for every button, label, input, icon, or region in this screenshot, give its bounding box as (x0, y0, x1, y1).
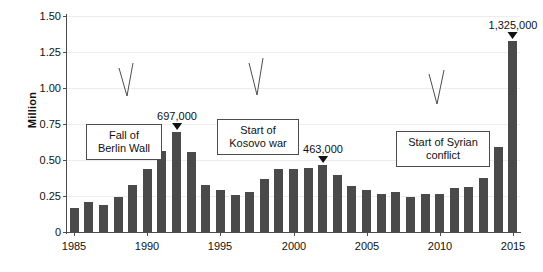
bar-chart: Million 00.250.500.751.001.251.50 198519… (0, 0, 543, 272)
y-axis-title: Million (26, 80, 38, 140)
y-tick-label: 0.75 (40, 118, 61, 130)
y-tick-label: 0.50 (40, 154, 61, 166)
x-tick-label: 2005 (355, 240, 379, 252)
callout-kosovo-war-line2: Kosovo war (224, 137, 292, 150)
x-tick-mark (220, 232, 221, 236)
callout-kosovo-war: Start of Kosovo war (217, 119, 299, 155)
x-tick-label: 1995 (208, 240, 232, 252)
callout-kosovo-war-line1: Start of (224, 124, 292, 137)
x-tick-label: 1985 (62, 240, 86, 252)
y-tick-label: 1.50 (40, 10, 61, 22)
y-tick-label: 0 (55, 226, 61, 238)
x-tick-label: 2010 (428, 240, 452, 252)
y-tick-mark (63, 232, 67, 233)
x-tick-mark (367, 232, 368, 236)
callout-syrian-conflict-line2: conflict (403, 149, 483, 162)
callout-berlin-wall-line2: Berlin Wall (93, 142, 155, 155)
y-tick-label: 1.00 (40, 82, 61, 94)
y-tick-label: 0.25 (40, 190, 61, 202)
x-tick-label: 2015 (501, 240, 525, 252)
x-tick-mark (74, 232, 75, 236)
x-tick-mark (440, 232, 441, 236)
y-tick-label: 1.25 (40, 46, 61, 58)
callout-syrian-conflict-line1: Start of Syrian (403, 136, 483, 149)
callout-berlin-wall-line1: Fall of (93, 129, 155, 142)
callout-berlin-wall: Fall of Berlin Wall (86, 124, 162, 160)
x-tick-label: 1990 (135, 240, 159, 252)
x-tick-mark (294, 232, 295, 236)
x-tick-label: 2000 (282, 240, 306, 252)
x-tick-mark (513, 232, 514, 236)
callout-syrian-conflict: Start of Syrian conflict (396, 131, 490, 167)
x-tick-mark (147, 232, 148, 236)
